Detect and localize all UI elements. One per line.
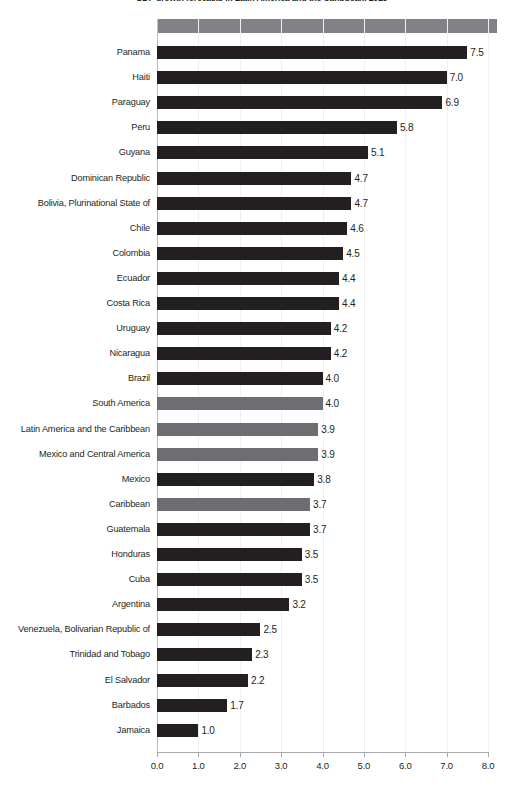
bar-row: Guyana5.1 [0, 140, 523, 165]
bar-row: Bolivia, Plurinational State of4.7 [0, 191, 523, 216]
bar [157, 548, 302, 561]
bar-row-label: South America [0, 391, 150, 416]
bar-row: Mexico3.8 [0, 467, 523, 492]
bar-row: Nicaragua4.2 [0, 341, 523, 366]
bar-value-label: 3.5 [305, 567, 318, 592]
bar-value-label: 4.6 [350, 216, 363, 241]
bar-row: South America4.0 [0, 391, 523, 416]
bar [157, 498, 310, 511]
bar [157, 372, 323, 385]
bar-value-label: 3.7 [313, 517, 326, 542]
bar-row: Trinidad and Tobago2.3 [0, 642, 523, 667]
bar-value-label: 3.2 [292, 592, 305, 617]
bar [157, 598, 289, 611]
bar-value-label: 3.5 [305, 542, 318, 567]
bar-value-label: 6.9 [445, 90, 458, 115]
bar-row: Mexico and Central America3.9 [0, 442, 523, 467]
bar-row: El Salvador2.2 [0, 668, 523, 693]
bar [157, 347, 331, 360]
bar-value-label: 4.2 [334, 341, 347, 366]
bar-row: Caribbean3.7 [0, 492, 523, 517]
bar [157, 222, 347, 235]
bar-row-label: Mexico [0, 467, 150, 492]
bar-value-label: 4.4 [342, 291, 355, 316]
x-axis-tick-label: 1.0 [178, 760, 218, 771]
bar-row: Venezuela, Bolivarian Republic of2.5 [0, 617, 523, 642]
x-axis-tick [488, 752, 489, 757]
bar [157, 473, 314, 486]
bar-row: Haiti7.0 [0, 65, 523, 90]
bar [157, 423, 318, 436]
bar-row-label: Barbados [0, 693, 150, 718]
bar-row: Uruguay4.2 [0, 316, 523, 341]
bar-row-label: Argentina [0, 592, 150, 617]
bar-row-label: Guyana [0, 140, 150, 165]
bar-row: Cuba3.5 [0, 567, 523, 592]
bar-row-label: Mexico and Central America [0, 442, 150, 467]
bar [157, 46, 467, 59]
bar-row-label: Peru [0, 115, 150, 140]
bar-value-label: 7.5 [470, 40, 483, 65]
bar [157, 71, 447, 84]
bar-row: Dominican Republic4.7 [0, 166, 523, 191]
x-axis-tick [281, 752, 282, 757]
bar-row-label: Guatemala [0, 517, 150, 542]
bar-row: Chile4.6 [0, 216, 523, 241]
bar-row-label: Trinidad and Tobago [0, 642, 150, 667]
bar-row-label: Haiti [0, 65, 150, 90]
bar-value-label: 1.0 [201, 718, 214, 743]
bar-value-label: 4.0 [326, 391, 339, 416]
bar [157, 172, 351, 185]
bar-row: Brazil4.0 [0, 366, 523, 391]
x-axis-tick-label: 3.0 [261, 760, 301, 771]
bar-row: Panama7.5 [0, 40, 523, 65]
bar-value-label: 5.8 [400, 115, 413, 140]
x-axis-tick-label: 0.0 [137, 760, 177, 771]
bar-row-label: Nicaragua [0, 341, 150, 366]
x-axis-tick [240, 752, 241, 757]
bar-chart-plot-area: Panama7.5Haiti7.0Paraguay6.9Peru5.8Guyan… [0, 0, 523, 799]
bar [157, 448, 318, 461]
bar [157, 297, 339, 310]
bar [157, 96, 442, 109]
x-axis-tick [364, 752, 365, 757]
x-axis-tick-label: 5.0 [344, 760, 384, 771]
bar [157, 247, 343, 260]
bar-value-label: 4.5 [346, 241, 359, 266]
x-axis-tick-label: 2.0 [220, 760, 260, 771]
bar-row-label: Brazil [0, 366, 150, 391]
bar-row-label: Caribbean [0, 492, 150, 517]
bar-row: Costa Rica4.4 [0, 291, 523, 316]
bar-value-label: 5.1 [371, 140, 384, 165]
bar-value-label: 1.7 [230, 693, 243, 718]
bar [157, 523, 310, 536]
bar [157, 322, 331, 335]
bar-row-label: Dominican Republic [0, 166, 150, 191]
bar-row: Argentina3.2 [0, 592, 523, 617]
bar-value-label: 2.5 [263, 617, 276, 642]
bar-row-label: Colombia [0, 241, 150, 266]
bar [157, 648, 252, 661]
bar-row-label: Jamaica [0, 718, 150, 743]
bar-row-label: Chile [0, 216, 150, 241]
bar-value-label: 4.0 [326, 366, 339, 391]
bar-value-label: 3.9 [321, 442, 334, 467]
bar [157, 623, 260, 636]
x-axis-tick-label: 7.0 [427, 760, 467, 771]
bar [157, 146, 368, 159]
bar-value-label: 3.9 [321, 417, 334, 442]
x-axis-tick [198, 752, 199, 757]
bar-row-label: Costa Rica [0, 291, 150, 316]
bar-row: Jamaica1.0 [0, 718, 523, 743]
bar-row-label: Paraguay [0, 90, 150, 115]
bar-row-label: Uruguay [0, 316, 150, 341]
bar-value-label: 4.4 [342, 266, 355, 291]
bar-value-label: 4.7 [354, 166, 367, 191]
bar-row: Barbados1.7 [0, 693, 523, 718]
bar-row-label: Panama [0, 40, 150, 65]
bar-row: Paraguay6.9 [0, 90, 523, 115]
bar-row-label: Cuba [0, 567, 150, 592]
bar [157, 197, 351, 210]
bar-value-label: 3.7 [313, 492, 326, 517]
bar [157, 724, 198, 737]
